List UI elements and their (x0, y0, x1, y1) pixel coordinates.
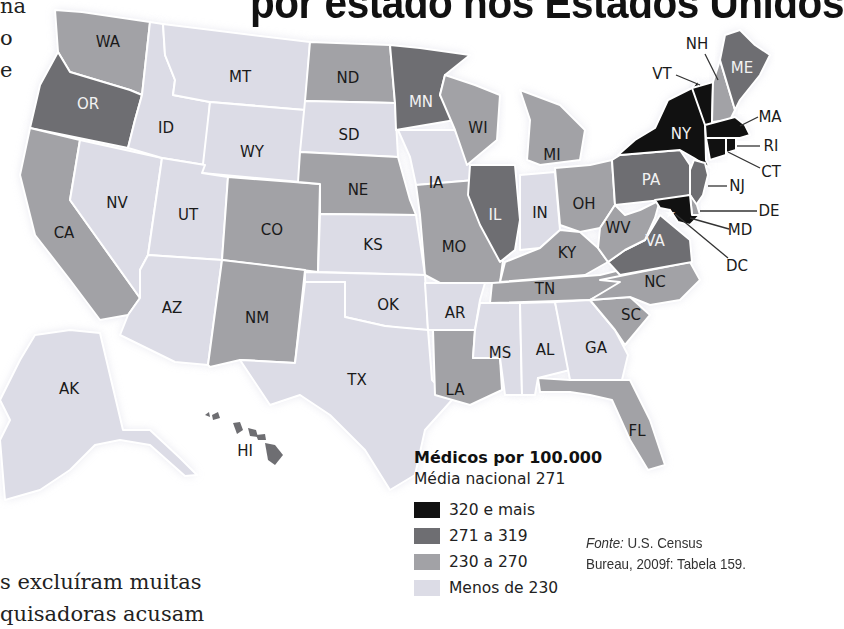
state-label-oh: OH (572, 195, 595, 213)
legend-label: Menos de 230 (449, 579, 558, 597)
state-label-nc: NC (644, 273, 666, 291)
state-label-ia: IA (429, 174, 444, 192)
state-label-hi: HI (237, 442, 253, 460)
state-label-la: LA (446, 381, 466, 399)
legend-item-271-319: 271 a 319 (414, 523, 602, 549)
legend-subtitle: Média nacional 271 (414, 470, 602, 488)
state-label-tx: TX (346, 371, 366, 389)
state-label-wy: WY (240, 143, 265, 161)
state-label-mi: MI (543, 146, 560, 164)
state-label-nd: ND (337, 69, 360, 87)
state-label-ri: RI (764, 137, 779, 155)
legend-label: 320 e mais (449, 501, 535, 519)
source-line-1: U.S. Census (624, 535, 703, 551)
state-hi-island (212, 412, 220, 420)
state-label-ks: KS (363, 236, 382, 254)
states-layer (0, 10, 770, 500)
legend-swatch (414, 528, 440, 544)
state-label-ok: OK (377, 296, 400, 314)
state-label-ca: CA (54, 224, 75, 242)
state-label-sd: SD (338, 126, 359, 144)
state-label-me: ME (731, 59, 753, 77)
legend-label: 230 a 270 (449, 553, 528, 571)
legend-label: 271 a 319 (449, 527, 528, 545)
state-label-al: AL (536, 341, 555, 359)
state-label-vt: VT (652, 65, 672, 83)
state-label-az: AZ (162, 299, 183, 317)
state-label-ar: AR (445, 304, 466, 322)
state-label-va: VA (645, 232, 665, 250)
state-hi-island (205, 412, 210, 417)
state-label-ct: CT (761, 163, 781, 181)
legend-item-230-270: 230 a 270 (414, 549, 602, 575)
legend-swatch (414, 502, 440, 518)
state-hi-island (256, 434, 266, 440)
legend: Médicos por 100.000 Média nacional 271 3… (414, 448, 602, 601)
legend-swatch (414, 580, 440, 596)
state-label-tn: TN (534, 280, 555, 298)
state-label-ne: NE (348, 181, 369, 199)
state-label-de: DE (758, 202, 779, 220)
state-label-dc: DC (726, 257, 748, 275)
state-label-ms: MS (489, 344, 511, 362)
legend-item-below-230: Menos de 230 (414, 575, 602, 601)
state-label-il: IL (489, 206, 502, 224)
state-ct (706, 138, 726, 160)
legend-swatch (414, 554, 440, 570)
state-label-ut: UT (178, 206, 199, 224)
source-prefix: Fonte: (586, 535, 624, 551)
state-ri (726, 138, 736, 153)
state-label-or: OR (77, 95, 99, 113)
state-label-wi: WI (468, 119, 487, 137)
state-label-mn: MN (409, 93, 433, 111)
legend-items: 320 e mais 271 a 319 230 a 270 Menos de … (414, 497, 602, 601)
state-label-ny: NY (671, 125, 692, 143)
state-label-mt: MT (229, 68, 252, 86)
state-label-ga: GA (585, 339, 608, 357)
legend-title: Médicos por 100.000 (414, 448, 602, 467)
state-label-co: CO (261, 221, 283, 239)
state-label-wv: WV (605, 219, 631, 237)
legend-item-320-plus: 320 e mais (414, 497, 602, 523)
state-hi-island (265, 443, 283, 465)
dc-star-icon: ★ (664, 206, 676, 221)
state-label-ak: AK (59, 380, 80, 398)
source-note: Fonte: U.S. Census Bureau, 2009f: Tabela… (586, 533, 746, 575)
state-hi-island (233, 422, 243, 434)
state-label-wa: WA (96, 33, 121, 51)
state-label-in: IN (532, 204, 548, 222)
source-line-2: Bureau, 2009f: Tabela 159. (586, 554, 746, 575)
state-label-nv: NV (106, 194, 128, 212)
state-label-pa: PA (642, 171, 661, 189)
state-label-ky: KY (558, 244, 577, 262)
state-label-id: ID (158, 119, 174, 137)
state-label-nj: NJ (729, 177, 745, 195)
state-label-fl: FL (629, 422, 647, 440)
state-label-sc: SC (621, 306, 641, 324)
leader-line-vt (676, 75, 700, 85)
state-label-nh: NH (686, 35, 709, 53)
state-label-ma: MA (758, 108, 782, 126)
leader-line-nh (705, 54, 718, 80)
state-label-md: MD (728, 221, 753, 239)
leader-line-md (690, 218, 729, 229)
leader-line-ma (740, 117, 758, 126)
state-label-nm: NM (245, 309, 269, 327)
leader-line-ct (728, 152, 760, 168)
state-label-mo: MO (442, 238, 467, 256)
